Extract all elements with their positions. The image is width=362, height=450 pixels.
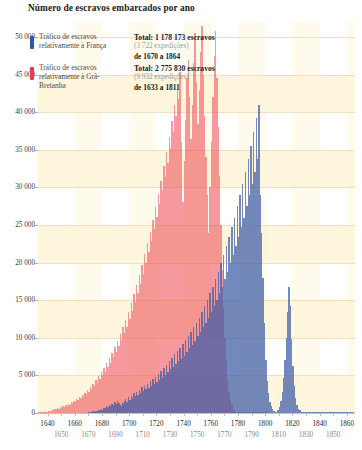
- x-axis-baseline: [38, 413, 355, 414]
- britain-color-swatch: [30, 67, 34, 80]
- y-axis-label: 20 000: [15, 259, 35, 267]
- x-axis-label: 1780: [231, 420, 245, 428]
- france-color-swatch: [30, 36, 34, 49]
- x-axis-label: 1750: [190, 431, 204, 439]
- x-axis-label: 1680: [95, 420, 109, 428]
- legend-item-britain: Tráfico de escravos relativamente à Grã-…: [26, 64, 258, 95]
- x-axis-label: 1810: [272, 431, 286, 439]
- page-title: Número de escravos embarcados por ano: [28, 3, 195, 13]
- legend-total-france: Total: 1 178 173 escravos: [134, 33, 258, 42]
- y-axis-label: 10 000: [15, 334, 35, 342]
- legend-range-france: de 1670 a 1864: [134, 52, 258, 61]
- legend-expeditions-france: (3 722 expedições): [134, 42, 258, 51]
- x-axis-label: 1640: [40, 420, 54, 428]
- y-axis-label: 35 000: [15, 146, 35, 154]
- x-axis-label: 1690: [108, 431, 122, 439]
- x-axis-label: 1740: [176, 420, 190, 428]
- chart-container: Número de escravos embarcados por ano 05…: [0, 0, 362, 450]
- x-axis-label: 1830: [299, 431, 313, 439]
- x-axis-label: 1760: [204, 420, 218, 428]
- x-axis-label: 1850: [326, 431, 340, 439]
- legend-label-britain: Tráfico de escravos relativamente à Grã-…: [39, 64, 125, 90]
- y-axis-label: 25 000: [15, 221, 35, 229]
- y-axis-label: 15 000: [15, 296, 35, 304]
- x-axis-label: 1800: [258, 420, 272, 428]
- x-axis-label: 1650: [54, 431, 68, 439]
- legend-total-britain: Total: 2 775 830 escravos: [134, 64, 258, 73]
- y-axis-label: 5 000: [19, 371, 35, 379]
- chart-legend: Tráfico de escravos relativamente à Fran…: [26, 33, 258, 95]
- x-axis-label: 1730: [163, 431, 177, 439]
- x-axis-label: 1820: [285, 420, 299, 428]
- x-axis-label: 1860: [340, 420, 354, 428]
- y-axis-label: 40 000: [15, 108, 35, 116]
- legend-expeditions-britain: (9 932 expedições): [134, 73, 258, 82]
- x-axis-label: 1790: [244, 431, 258, 439]
- x-axis-label: 1700: [122, 420, 136, 428]
- x-axis-label: 1840: [312, 420, 326, 428]
- legend-stats-france: Total: 1 178 173 escravos (3 722 expediç…: [134, 33, 258, 61]
- x-axis: 1640166016801700172017401760178018001820…: [38, 413, 355, 448]
- legend-item-france: Tráfico de escravos relativamente à Fran…: [26, 33, 258, 63]
- x-axis-label: 1660: [68, 420, 82, 428]
- x-axis-label: 1720: [149, 420, 163, 428]
- x-axis-label: 1670: [81, 431, 95, 439]
- legend-label-france: Tráfico de escravos relativamente à Fran…: [39, 33, 125, 51]
- legend-stats-britain: Total: 2 775 830 escravos (9 932 expediç…: [134, 64, 258, 92]
- x-axis-label: 1710: [136, 431, 150, 439]
- legend-range-britain: de 1633 a 1811: [134, 83, 258, 92]
- y-axis-label: 30 000: [15, 183, 35, 191]
- x-axis-label: 1770: [217, 431, 231, 439]
